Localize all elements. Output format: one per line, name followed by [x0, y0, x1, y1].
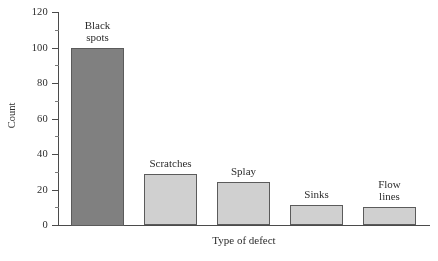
y-tick-major [52, 190, 59, 191]
y-tick-major [52, 225, 59, 226]
y-tick-major [52, 12, 59, 13]
x-axis-title: Type of defect [58, 234, 430, 246]
y-tick-major [52, 83, 59, 84]
y-tick-label-text: 80 [22, 78, 48, 88]
bar-label: Flow lines [351, 179, 428, 202]
y-tick-major [52, 119, 59, 120]
y-tick-label-text: 120 [22, 7, 48, 17]
bar [71, 48, 124, 226]
y-tick-minor [55, 65, 59, 66]
bar-label: Sinks [278, 189, 355, 201]
y-tick-major [52, 154, 59, 155]
bar [290, 205, 343, 225]
y-tick-label-text: 20 [22, 185, 48, 195]
bar [144, 174, 197, 225]
y-tick-minor [55, 172, 59, 173]
y-tick-label-text: 100 [22, 43, 48, 53]
y-tick-minor [55, 207, 59, 208]
plot-area: 020406080100120 Black spotsScratchesSpla… [0, 0, 438, 261]
y-tick-major [52, 48, 59, 49]
y-tick-minor [55, 136, 59, 137]
y-tick-label-text: 0 [22, 220, 48, 230]
y-tick-label: 80 [18, 78, 48, 88]
bar [363, 207, 416, 225]
bar-label: Black spots [59, 20, 136, 43]
bar [217, 182, 270, 225]
bar-chart: 020406080100120 Black spotsScratchesSpla… [0, 0, 438, 261]
y-tick-label: 120 [18, 7, 48, 17]
y-tick-label: 100 [18, 43, 48, 53]
y-axis-title: Count [6, 89, 17, 143]
bar-label: Splay [205, 166, 282, 178]
y-tick-label: 0 [18, 220, 48, 230]
y-tick-label: 20 [18, 185, 48, 195]
y-tick-label-text: 60 [22, 114, 48, 124]
y-tick-label: 40 [18, 149, 48, 159]
y-tick-label-text: 40 [22, 149, 48, 159]
y-tick-label: 60 [18, 114, 48, 124]
y-tick-minor [55, 101, 59, 102]
bar-label: Scratches [132, 158, 209, 170]
